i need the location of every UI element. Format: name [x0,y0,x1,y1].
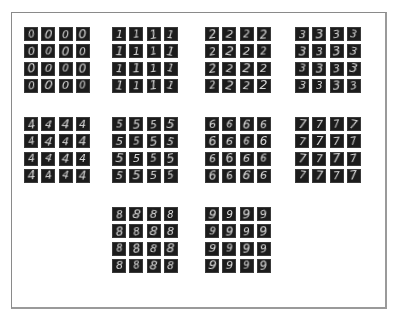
digit-image: 2 [205,62,219,76]
digit-glyph: 8 [167,260,174,271]
digit-glyph: 0 [62,29,69,40]
digit-image: 4 [24,169,38,183]
digit-image: 6 [205,152,219,166]
digit-image: 6 [257,117,271,131]
digit-image: 7 [330,169,344,183]
digit-glyph: 1 [167,63,175,74]
digit-glyph: 8 [150,243,158,254]
digit-image: 5 [129,169,143,183]
digit-image: 8 [147,207,161,221]
digit-grid-5: 5555555555555555 [112,117,178,183]
digit-image: 6 [240,152,254,166]
digit-image: 7 [295,152,309,166]
digit-glyph: 3 [316,81,322,91]
digit-glyph: 1 [115,45,123,58]
digit-glyph: 4 [62,136,69,147]
digit-glyph: 1 [166,80,175,92]
digit-glyph: 2 [260,80,268,93]
digit-grid-8: 8888888888888888 [112,207,178,273]
digit-glyph: 3 [349,62,359,76]
digit-image: 7 [295,117,309,131]
digit-image: 8 [129,259,143,273]
digit-glyph: 5 [133,153,140,164]
digit-glyph: 1 [149,63,157,75]
digit-glyph: 2 [243,29,250,39]
digit-image: 1 [112,27,126,41]
digit-image: 6 [205,117,219,131]
digit-glyph: 1 [115,80,123,92]
digit-glyph: 5 [166,152,176,165]
digit-image: 7 [330,117,344,131]
digit-glyph: 3 [315,63,323,75]
digit-glyph: 9 [243,242,251,254]
digit-glyph: 2 [225,79,235,92]
digit-glyph: 7 [298,152,307,165]
digit-image: 0 [76,79,90,93]
digit-image: 1 [112,62,126,76]
digit-image: 6 [240,117,254,131]
digit-glyph: 3 [333,63,341,74]
digit-image: 4 [41,152,55,166]
digit-glyph: 8 [132,226,140,238]
digit-image: 4 [76,134,90,148]
digit-image: 8 [164,242,178,256]
digit-glyph: 2 [260,28,268,40]
digit-image: 9 [205,259,219,273]
digit-image: 4 [41,169,55,183]
digit-image: 2 [222,44,236,58]
digit-glyph: 1 [132,62,140,75]
digit-image: 7 [295,134,309,148]
digit-image: 2 [205,27,219,41]
digit-glyph: 7 [298,171,305,182]
digit-glyph: 1 [115,28,122,39]
digit-grid-4: 4444444444444444 [24,117,90,183]
digit-glyph: 0 [27,29,35,40]
digit-glyph: 0 [78,27,87,40]
digit-glyph: 0 [43,79,53,93]
digit-image: 8 [147,242,161,256]
digit-glyph: 8 [115,260,123,272]
digit-glyph: 3 [298,29,305,40]
digit-image: 5 [129,152,143,166]
digit-glyph: 3 [315,28,324,41]
digit-glyph: 5 [132,170,140,183]
digit-image: 7 [312,117,326,131]
digit-grid-9: 9999999999999999 [205,207,271,273]
digit-glyph: 7 [350,136,358,147]
digit-image: 9 [240,207,254,221]
digit-grid-3: 3333333333333333 [295,27,361,93]
digit-glyph: 4 [79,170,87,182]
digit-image: 9 [205,224,219,238]
digit-image: 4 [41,134,55,148]
digit-glyph: 5 [150,170,158,182]
digit-image: 4 [59,117,73,131]
digit-image: 1 [164,79,178,93]
digit-glyph: 3 [349,45,358,57]
digit-image: 3 [330,62,344,76]
digit-image: 2 [257,79,271,93]
digit-image: 7 [295,169,309,183]
digit-image: 0 [41,79,55,93]
digit-image: 0 [59,62,73,76]
digit-glyph: 6 [242,118,250,130]
digit-image: 1 [112,79,126,93]
digit-image: 3 [295,79,309,93]
digit-image: 5 [164,117,178,131]
digit-image: 2 [257,44,271,58]
digit-image: 8 [112,207,126,221]
digit-glyph: 7 [298,136,306,147]
digit-glyph: 2 [242,62,251,75]
digit-glyph: 8 [131,207,141,221]
digit-glyph: 4 [27,136,34,147]
digit-image: 7 [347,117,361,131]
digit-image: 7 [330,134,344,148]
digit-image: 4 [24,134,38,148]
digit-glyph: 4 [44,135,53,148]
digit-glyph: 1 [132,46,140,58]
digit-image: 9 [240,242,254,256]
digit-glyph: 2 [243,80,251,91]
digit-glyph: 4 [61,118,70,131]
digit-image: 5 [147,152,161,166]
digit-image: 8 [112,242,126,256]
digit-image: 6 [240,169,254,183]
